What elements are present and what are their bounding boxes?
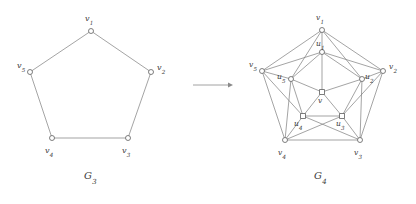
right-graph-label-u3: u3 (336, 120, 344, 130)
left-graph-label-v4: v4 (45, 147, 53, 157)
right-graph-edge (322, 30, 383, 71)
right-graph-label-v5: v5 (249, 61, 257, 71)
right-graph-node-v1 (320, 28, 325, 33)
left-graph-node-v3 (126, 136, 131, 141)
left-graph-label-v3: v3 (122, 147, 130, 157)
right-graph-node-u3 (340, 114, 345, 119)
right-graph-node-v2 (381, 69, 386, 74)
right-graph-edge (322, 52, 383, 71)
right-graph-edge (291, 79, 303, 116)
right-graph-edge (322, 30, 362, 79)
left-graph-node-v1 (89, 29, 94, 34)
right-graph-edge (303, 116, 360, 140)
right-graph-label-u2: u2 (365, 73, 373, 83)
right-graph-edge (291, 79, 322, 92)
left-graph-nodes (28, 29, 154, 141)
left-graph-edges (30, 31, 151, 138)
right-graph-label-u5: u5 (277, 73, 285, 83)
left-graph-caption: G3 (84, 170, 96, 184)
right-graph-node-v4 (283, 138, 288, 143)
right-graph-label-v: v (318, 97, 322, 105)
left-graph-label-v1: v1 (85, 15, 93, 25)
right-graph-edge (262, 30, 322, 71)
right-graph-edge (322, 52, 362, 79)
left-graph-label-v5: v5 (17, 62, 25, 72)
right-graph-caption: G4 (314, 170, 326, 184)
right-graph-node-u2 (360, 77, 365, 82)
left-graph-node-v4 (50, 136, 55, 141)
right-graph-label-u1: u1 (316, 40, 324, 50)
right-graph-edge (285, 79, 291, 140)
arrow-head-icon (228, 83, 233, 88)
right-graph-label-u4: u4 (294, 120, 302, 130)
right-graph-edge (291, 30, 322, 79)
right-graph-edge (360, 79, 362, 140)
left-graph-node-v5 (28, 70, 33, 75)
right-graph-node-u5 (289, 77, 294, 82)
right-graph-label-v2: v2 (389, 63, 397, 73)
right-graph-edge (322, 92, 342, 116)
right-graph-node-v3 (358, 138, 363, 143)
left-graph-edge (91, 31, 151, 72)
right-graph-node-v5 (260, 69, 265, 74)
right-graph-node-v (320, 90, 325, 95)
left-graph-edge (30, 31, 91, 72)
right-graph-label-v3: v3 (354, 149, 362, 159)
right-graph-label-v4: v4 (278, 149, 286, 159)
left-graph-label-v2: v2 (157, 64, 165, 74)
figure-canvas: v1v2v3v4v5v1v2v3v4v5u1u2u3u4u5v G3 G4 (0, 0, 416, 204)
right-graph-edge (291, 52, 322, 79)
right-graph-node-u4 (301, 114, 306, 119)
left-graph-edge (30, 72, 52, 138)
left-graph-node-v2 (149, 70, 154, 75)
right-arrow (193, 83, 233, 88)
graph-figure-svg (0, 0, 416, 204)
left-graph-edge (128, 72, 151, 138)
right-graph-label-v1: v1 (316, 14, 324, 24)
right-graph-edge (262, 52, 322, 71)
